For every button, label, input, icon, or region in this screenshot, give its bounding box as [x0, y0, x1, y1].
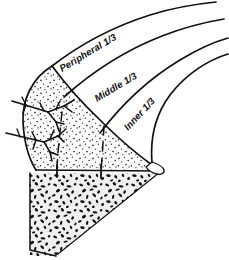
- zone-label-peripheral: Peripheral 1/3: [57, 31, 118, 74]
- diagram-canvas: Peripheral 1/3 Middle 1/3 Inner 1/3: [0, 0, 229, 260]
- subchondral-bone-region: [29, 172, 160, 256]
- zone-label-inner: Inner 1/3: [121, 95, 157, 132]
- meniscus-body-region: [23, 66, 164, 174]
- bone-trabecular-fill: [29, 173, 160, 256]
- meniscus-zone-diagram: Peripheral 1/3 Middle 1/3 Inner 1/3: [0, 0, 229, 260]
- meniscus-tibial-surface: [36, 170, 158, 171]
- zone-label-middle: Middle 1/3: [92, 70, 139, 104]
